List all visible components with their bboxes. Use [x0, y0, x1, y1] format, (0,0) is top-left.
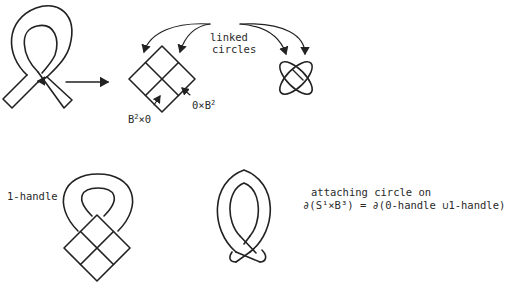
one-handle-figure	[63, 174, 132, 281]
caption-attaching-line1: attaching circle on	[311, 186, 431, 198]
diagram-canvas	[0, 0, 527, 294]
ribbon-loop-figure	[3, 6, 72, 108]
caption-attaching-line2: ∂(S¹×B³) = ∂(0-handle ∪1-handle)	[303, 199, 505, 211]
label-cross-zero: ×0	[139, 113, 152, 125]
label-zero-cross-b2-sup: 2	[211, 99, 215, 107]
label-b2-cross-zero: B2×0	[128, 113, 151, 125]
label-1-handle: 1-handle	[7, 190, 58, 202]
attaching-circle	[217, 170, 270, 262]
label-zero-cross-b2: 0×B2	[192, 99, 215, 111]
label-zero-cross-b2-text: 0×B	[192, 99, 211, 111]
label-circles: circles	[212, 43, 256, 55]
label-linked: linked	[210, 31, 248, 43]
hopf-link	[275, 57, 317, 99]
plumbing-square	[129, 46, 195, 112]
